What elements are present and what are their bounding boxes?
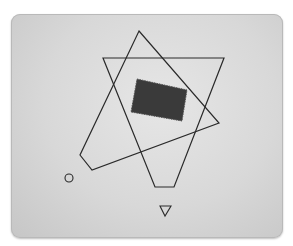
small-down-triangle-shape	[160, 206, 171, 216]
truncated-inverted-triangle-shape	[103, 58, 224, 187]
dark-rectangle-shape	[131, 79, 187, 121]
diagram-canvas	[0, 0, 293, 246]
small-circle-shape	[65, 174, 73, 182]
